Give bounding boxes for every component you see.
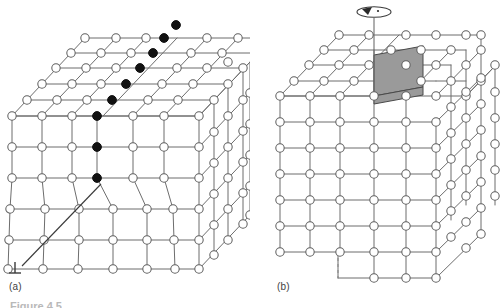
rotation-arrow <box>357 7 391 17</box>
screw-dislocation-panel <box>250 0 500 308</box>
figure-caption: Figure 4.5 <box>10 300 62 308</box>
dislocation-line-atoms <box>93 21 181 183</box>
panel-b-right-atoms <box>447 74 499 252</box>
panel-a-top-atoms <box>8 34 247 120</box>
panel-a-label: (a) <box>9 281 22 292</box>
panel-b-label: (b) <box>277 281 290 292</box>
panel-a-lattice-lines <box>8 38 250 269</box>
edge-dislocation-panel <box>0 0 250 308</box>
burgers-guide-line <box>22 184 101 266</box>
dislocation-figure: (a) (b) Figure 4.5 <box>0 0 500 308</box>
